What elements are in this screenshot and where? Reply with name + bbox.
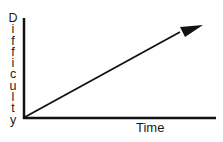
- difficulty-vs-time-diagram: [0, 0, 223, 142]
- trend-line: [25, 32, 180, 117]
- arrow-head-icon: [180, 25, 203, 37]
- y-axis-label: D i f f i c u l t y: [6, 13, 20, 126]
- y-letter: y: [6, 115, 20, 126]
- x-axis-label: Time: [136, 120, 164, 135]
